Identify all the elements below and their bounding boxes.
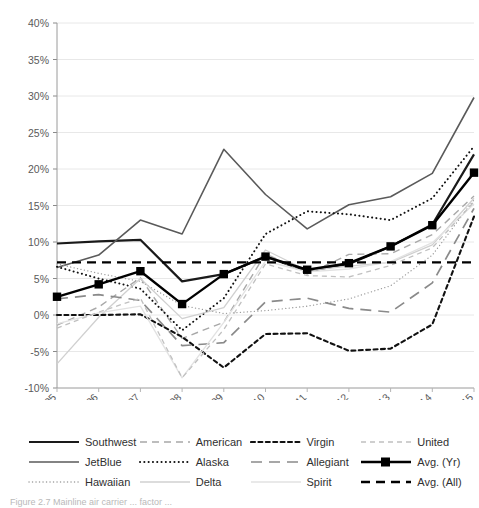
chart-legend: SouthwestAmericanVirginUnitedJetBlueAlas… (0, 432, 479, 494)
series-marker (386, 242, 394, 250)
legend-swatch-icon (139, 456, 191, 468)
legend-swatch-icon (250, 456, 302, 468)
series-line (57, 196, 474, 338)
x-axis-label: 2013 (367, 391, 392, 400)
legend-label: Delta (196, 476, 222, 488)
series-marker (261, 252, 269, 260)
x-axis-label: 2007 (117, 391, 142, 400)
x-axis-label: 2011 (284, 391, 309, 400)
y-axis-label: 15% (28, 200, 49, 212)
legend-label: Avg. (Yr) (417, 456, 460, 468)
legend-label: Southwest (85, 436, 136, 448)
legend-item[interactable]: JetBlue (28, 456, 139, 468)
x-axis-label: 2012 (325, 391, 350, 400)
legend-swatch-icon (360, 436, 412, 448)
legend-label: Alaska (196, 456, 229, 468)
legend-swatch-icon (139, 476, 191, 488)
legend-swatch-icon (360, 476, 412, 488)
legend-swatch-icon (28, 436, 80, 448)
y-axis-label: -5% (30, 346, 49, 358)
legend-label: United (417, 436, 449, 448)
legend-item[interactable]: Avg. (Yr) (360, 456, 471, 468)
legend-label: Allegiant (307, 456, 349, 468)
legend-label: Hawaiian (85, 476, 130, 488)
y-axis-label: 0% (34, 309, 49, 321)
y-axis-label: 40% (28, 17, 49, 29)
legend-item[interactable]: Spirit (250, 476, 361, 488)
series-line (57, 198, 474, 364)
series-marker (95, 280, 103, 288)
legend-label: JetBlue (85, 456, 122, 468)
series-marker (470, 168, 478, 176)
legend-swatch-icon (250, 436, 302, 448)
series-line (57, 217, 474, 368)
y-axis-label: 5% (34, 273, 49, 285)
figure-container: -10%-5%0%5%10%15%20%25%30%35%40%20052006… (0, 0, 479, 508)
legend-swatch-icon (28, 476, 80, 488)
legend-item[interactable]: Alaska (139, 456, 250, 468)
y-axis-label: 20% (28, 163, 49, 175)
x-axis-label: 2008 (159, 391, 184, 400)
legend-label: Virgin (307, 436, 335, 448)
x-axis-label: 2009 (200, 391, 225, 400)
legend-swatch-icon (28, 456, 80, 468)
legend-item[interactable]: Southwest (28, 436, 139, 448)
legend-item[interactable]: Virgin (250, 436, 361, 448)
legend-item[interactable]: Hawaiian (28, 476, 139, 488)
y-axis-label: 10% (28, 236, 49, 248)
x-axis-label: 2014 (409, 391, 434, 400)
figure-caption: Figure 2.7 Mainline air carrier ... fact… (10, 497, 479, 508)
legend-label: American (196, 436, 242, 448)
legend-item[interactable]: American (139, 436, 250, 448)
legend-label: Spirit (307, 476, 332, 488)
series-marker (303, 266, 311, 274)
legend-swatch-icon (360, 456, 412, 468)
y-axis-label: 35% (28, 54, 49, 66)
series-marker (53, 293, 61, 301)
legend-item[interactable]: Avg. (All) (360, 476, 471, 488)
x-axis-label: 2006 (75, 391, 100, 400)
series-marker (428, 221, 436, 229)
y-axis-label: -10% (24, 382, 49, 394)
chart-plot-area: -10%-5%0%5%10%15%20%25%30%35%40%20052006… (0, 0, 479, 400)
legend-swatch-icon (250, 476, 302, 488)
legend-item[interactable]: Delta (139, 476, 250, 488)
x-axis-label: 2010 (242, 391, 267, 400)
series-marker (178, 300, 186, 308)
legend-item[interactable]: Allegiant (250, 456, 361, 468)
legend-swatch-icon (139, 436, 191, 448)
series-marker (136, 267, 144, 275)
line-chart: -10%-5%0%5%10%15%20%25%30%35%40%20052006… (0, 0, 479, 400)
x-axis-label: 2015 (450, 391, 475, 400)
y-axis-label: 25% (28, 127, 49, 139)
legend-item[interactable]: United (360, 436, 471, 448)
y-axis-label: 30% (28, 90, 49, 102)
series-marker (220, 270, 228, 278)
legend-label: Avg. (All) (417, 476, 461, 488)
